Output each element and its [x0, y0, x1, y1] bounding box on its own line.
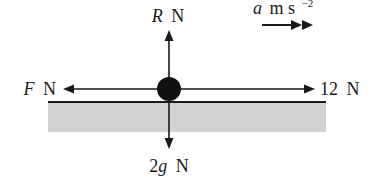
label-weight-force: 2g N [149, 156, 189, 176]
ground-surface [48, 102, 326, 132]
label-acceleration: a m s −2 [253, 0, 313, 18]
acceleration-symbol: a [253, 0, 262, 18]
horizontal-force-arrows [63, 85, 315, 94]
arrowhead-down-icon [165, 138, 174, 149]
reaction-unit: N [171, 6, 184, 26]
label-friction-force: F N [23, 79, 57, 99]
acceleration-unit: m s [270, 0, 296, 18]
label-reaction-force: R N [151, 6, 185, 26]
weight-symbol: g [158, 156, 167, 176]
weight-unit: N [176, 156, 189, 176]
arrowhead-left-icon [63, 85, 74, 94]
label-applied-force: 12 N [320, 79, 360, 99]
friction-symbol: F [23, 79, 36, 99]
applied-value: 12 [320, 79, 338, 99]
arrowhead-up-icon [165, 30, 174, 41]
applied-unit: N [347, 79, 360, 99]
weight-coefficient: 2 [149, 156, 158, 176]
particle-icon [157, 77, 181, 101]
force-diagram: R N F N 12 N 2g N a m s −2 [0, 0, 380, 185]
acceleration-exponent: −2 [302, 0, 314, 9]
reaction-symbol: R [151, 6, 163, 26]
friction-unit: N [43, 79, 56, 99]
double-arrow-right-icon [262, 20, 313, 30]
arrowhead-right-icon [304, 85, 315, 94]
